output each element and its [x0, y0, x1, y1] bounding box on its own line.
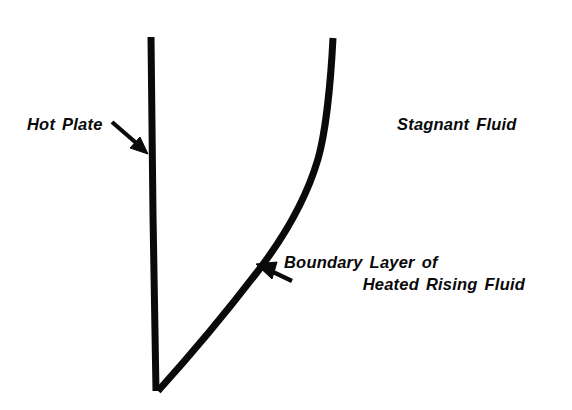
boundary-layer-label: BoundaryLayerof HeatedRisingFluid — [284, 252, 526, 296]
boundary-layer-label-line-2-word-3: Fluid — [485, 275, 525, 293]
hot-plate-label: HotPlate — [27, 114, 103, 136]
stagnant-fluid-label: StagnantFluid — [397, 114, 517, 136]
boundary-layer-label-line-1: BoundaryLayerof — [284, 252, 526, 274]
figure-canvas: HotPlate StagnantFluid BoundaryLayerof H… — [0, 0, 572, 410]
boundary-layer-label-line-2-word-2: Rising — [426, 275, 478, 293]
diagram-graphics — [0, 0, 572, 410]
paper-background — [0, 0, 572, 410]
boundary-layer-label-line-1-word-3: of — [422, 253, 438, 271]
boundary-layer-label-line-1-word-1: Boundary — [284, 253, 363, 271]
hot-plate-label-word-2: Plate — [62, 115, 102, 133]
stagnant-fluid-label-word-2: Fluid — [476, 115, 516, 133]
stagnant-fluid-label-word-1: Stagnant — [397, 115, 469, 133]
hot-plate-label-word-1: Hot — [27, 115, 55, 133]
boundary-layer-label-line-2-word-1: Heated — [363, 275, 419, 293]
boundary-layer-label-line-2: HeatedRisingFluid — [284, 274, 526, 296]
boundary-layer-label-line-1-word-2: Layer — [370, 253, 415, 271]
